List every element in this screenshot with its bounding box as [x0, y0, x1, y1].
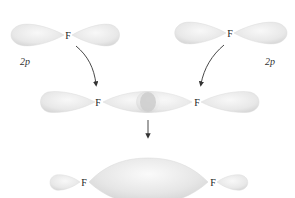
atom-label-f: F [95, 97, 101, 108]
lobe-left [11, 24, 64, 46]
curved-arrow-right-icon [201, 45, 224, 84]
atom-label-f: F [210, 177, 216, 188]
lobe-right [72, 24, 120, 46]
lobe-left-outer [41, 91, 96, 112]
orbital-label-2p: 2p [20, 56, 30, 67]
lobe-small-left [50, 175, 80, 190]
top-right-2p-orbital: F [175, 22, 287, 44]
lobe-right [234, 22, 287, 44]
atom-label-f: F [227, 28, 233, 39]
orbital-overlap-diagram: F 2p F 2p F F F F [0, 0, 295, 198]
sigma-bond-orbital: F F [50, 158, 248, 198]
lobe-right-outer [201, 91, 259, 112]
overlap-region [140, 92, 156, 112]
bonding-lobe [89, 158, 208, 198]
orbital-label-2p: 2p [265, 56, 275, 67]
top-left-2p-orbital: F [11, 24, 120, 46]
curved-arrow-left-icon [76, 46, 96, 84]
atom-label-f: F [194, 97, 200, 108]
lobe-small-right [217, 175, 248, 190]
middle-overlap-orbitals: F F [41, 91, 260, 112]
atom-label-f: F [65, 30, 71, 41]
lobe-left [175, 22, 226, 44]
atom-label-f: F [81, 177, 87, 188]
